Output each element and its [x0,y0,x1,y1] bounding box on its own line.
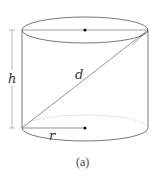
radius-label: r [49,128,56,143]
height-label: h [8,71,16,86]
diagonal-line [22,30,148,128]
bottom-center-dot [83,126,86,129]
diagonal-label: d [75,67,83,82]
cylinder-diagram: h d r (a) [0,0,159,176]
figure-caption: (a) [76,155,89,169]
bottom-ellipse-front [22,128,148,141]
bottom-ellipse-back [22,115,148,128]
diagonal-tick [132,33,145,45]
top-center-dot [83,28,86,31]
cylinder-figure: h d r (a) [0,0,159,176]
